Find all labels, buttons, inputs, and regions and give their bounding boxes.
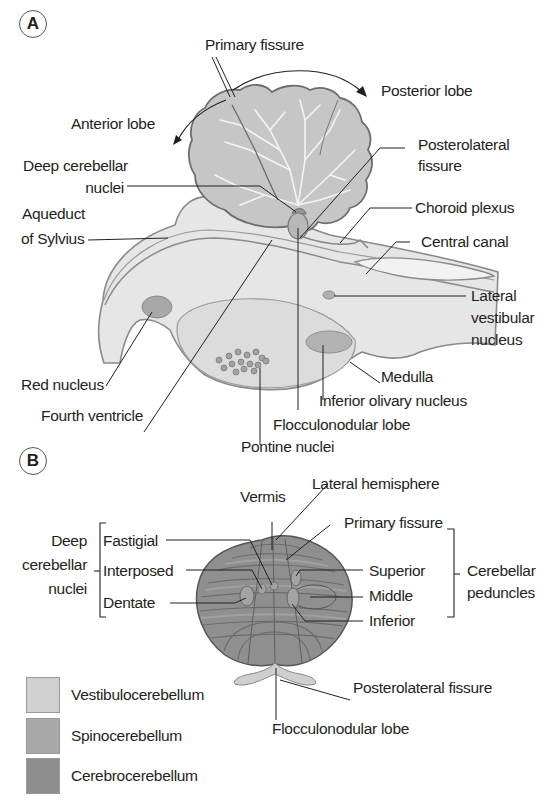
legend-label-spinocerebellum: Spinocerebellum [71,727,182,745]
label-fourth-ventricle: Fourth ventricle [41,407,143,425]
legend-label-cerebrocerebellum: Cerebrocerebellum [71,767,198,785]
label-posterolateral-fissure-b: Posterolateral fissure [353,679,492,697]
panel-b-illustration [197,536,353,685]
label-vermis: Vermis [240,488,286,506]
red-nucleus [142,296,172,318]
label-deep-cerebellar-nuclei-a-1: Deep cerebellar [10,157,128,175]
label-aqueduct-1: Aqueduct [22,205,85,223]
label-dentate: Dentate [103,594,155,612]
label-posterolateral-fissure-a-2: fissure [418,157,462,175]
label-lateral-vestibular-1: Lateral [471,287,516,305]
label-cerebellar-peduncles-2: peduncles [467,584,535,602]
label-inferior-peduncle: Inferior [369,612,415,630]
label-superior-peduncle: Superior [369,562,425,580]
legend-label-vestibulocerebellum: Vestibulocerebellum [71,686,204,704]
label-primary-fissure-a: Primary fissure [205,36,304,54]
inferior-olivary-nucleus [306,331,352,353]
legend-swatch-vestibulocerebellum [26,677,60,713]
label-cerebellar-peduncles-1: Cerebellar [467,562,536,580]
label-fastigial: Fastigial [103,532,158,550]
label-lateral-vestibular-3: nucleus [471,331,522,349]
label-central-canal: Central canal [421,233,508,251]
label-flocculonodular-lobe-a: Flocculonodular lobe [273,416,410,434]
lateral-vestibular-nucleus [323,291,335,299]
label-pontine-nuclei: Pontine nuclei [241,438,334,456]
label-deep-b-1: Deep [10,532,87,550]
label-interposed: Interposed [103,562,173,580]
superior-peduncle [291,570,301,586]
label-lateral-vestibular-2: vestibular [471,309,534,327]
label-inferior-olivary-nucleus: Inferior olivary nucleus [319,392,467,410]
flocculonodular-lobe-b [234,663,315,685]
label-aqueduct-2: of Sylvius [21,230,84,248]
panel-a-badge: A [19,10,47,38]
dentate-nucleus [240,586,254,606]
label-primary-fissure-b: Primary fissure [344,514,443,532]
label-choroid-plexus: Choroid plexus [415,199,514,217]
label-posterolateral-fissure-a-1: Posterolateral [418,136,509,154]
label-medulla: Medulla [381,368,433,386]
legend-swatch-spinocerebellum [26,718,60,754]
label-flocculonodular-lobe-b: Flocculonodular lobe [272,720,409,738]
label-deep-b-2: cerebellar [10,556,87,574]
legend-swatch-cerebrocerebellum [26,758,60,794]
panel-b-badge: B [19,447,47,475]
label-middle-peduncle: Middle [369,587,413,605]
label-posterior-lobe: Posterior lobe [381,82,472,100]
label-lateral-hemisphere: Lateral hemisphere [312,475,439,493]
label-deep-cerebellar-nuclei-a-2: nuclei [10,179,124,197]
label-anterior-lobe: Anterior lobe [71,115,155,133]
label-deep-b-3: nuclei [10,580,87,598]
label-red-nucleus: Red nucleus [21,376,104,394]
